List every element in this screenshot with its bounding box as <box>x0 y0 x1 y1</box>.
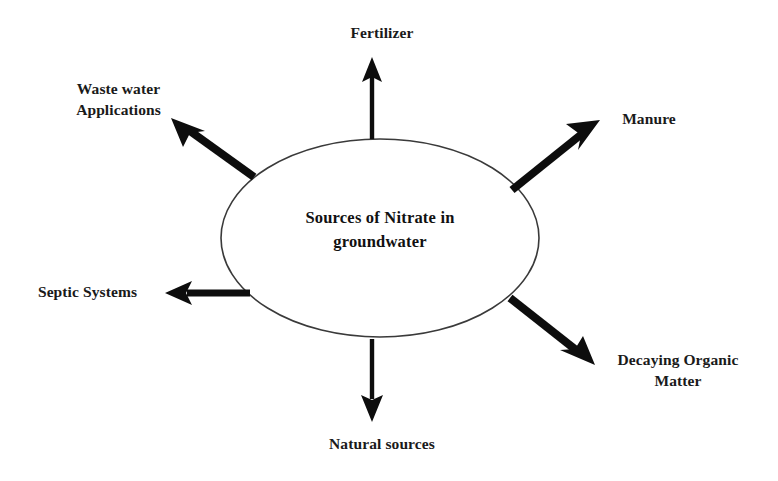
node-label-natural-sources: Natural sources <box>287 433 477 454</box>
node-label-septic-systems: Septic Systems <box>5 281 170 302</box>
arrow-to-waste-water-applications <box>171 118 254 177</box>
center-node-label: Sources of Nitrate in groundwater <box>230 206 530 254</box>
node-label-fertilizer: Fertilizer <box>307 22 457 43</box>
arrow-to-decaying-organic-matter <box>510 298 595 365</box>
arrow-to-manure <box>512 120 600 190</box>
diagram-canvas: Sources of Nitrate in groundwater Fertil… <box>0 0 778 481</box>
arrow-to-fertilizer <box>362 57 382 139</box>
node-label-waste-water-applications: Waste water Applications <box>36 78 201 121</box>
node-label-decaying-organic-matter: Decaying Organic Matter <box>588 349 768 392</box>
arrow-to-natural-sources <box>361 339 383 422</box>
arrow-to-septic-systems <box>165 281 250 305</box>
node-label-manure: Manure <box>584 108 714 129</box>
